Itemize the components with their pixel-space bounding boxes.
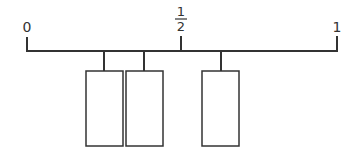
- box-1: [86, 71, 123, 146]
- label-one: 1: [333, 19, 342, 35]
- number-line-diagram: 0 1 2 1: [0, 0, 355, 156]
- label-half-numerator: 1: [177, 4, 185, 19]
- box-2: [126, 71, 163, 146]
- label-zero: 0: [23, 19, 32, 35]
- label-half-denominator: 2: [177, 19, 185, 34]
- box-3: [202, 71, 239, 146]
